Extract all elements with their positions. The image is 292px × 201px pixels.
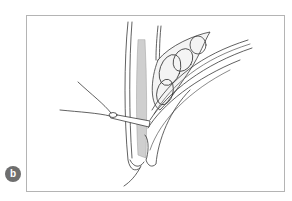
panel-label-badge: b [5,166,21,182]
anatomical-illustration [0,0,292,201]
